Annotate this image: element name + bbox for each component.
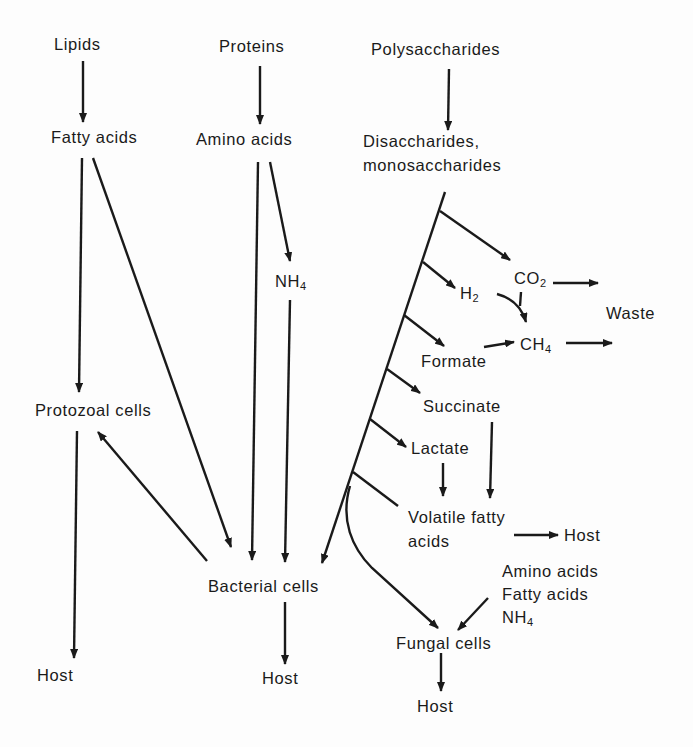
arrow-to-co2: [440, 211, 510, 260]
arrow-to-lactate: [370, 419, 406, 447]
ch4-text: CH: [520, 335, 545, 353]
node-fungal-cells: Fungal cells: [396, 633, 491, 654]
node-polysaccharides: Polysaccharides: [371, 39, 500, 60]
node-fungal-inputs-nh4: NH4: [502, 607, 534, 633]
co2-subscript: 2: [540, 277, 547, 289]
node-monosaccharides: monosaccharides: [363, 155, 501, 176]
node-host-vfa: Host: [564, 525, 600, 546]
nh4-subscript: 4: [300, 280, 307, 292]
h2-text: H: [460, 284, 473, 302]
node-ch4: CH4: [520, 334, 552, 360]
arrow-inputs-to-fungal: [458, 598, 488, 630]
node-waste: Waste: [606, 303, 655, 324]
line-to-vfa: [353, 472, 398, 506]
arrow-layer: [0, 0, 693, 747]
fungal-nh4-subscript: 4: [527, 616, 534, 628]
arrow-fatty-acids-to-bacterial: [93, 158, 231, 547]
node-vfa-line1: Volatile fatty: [408, 507, 505, 528]
arrow-succinate-to-vfa: [490, 422, 492, 498]
node-host-protozoal: Host: [37, 665, 73, 686]
arrow-amino-acids-to-bacterial: [252, 162, 258, 560]
node-co2: CO2: [514, 268, 547, 294]
ch4-subscript: 4: [545, 343, 552, 355]
arrow-protozoal-to-host: [74, 431, 77, 658]
arrow-polysaccharides-to-disaccharides: [448, 69, 449, 130]
node-succinate: Succinate: [423, 396, 501, 417]
arrow-co2-to-ch4: [520, 292, 521, 306]
node-proteins: Proteins: [219, 36, 284, 57]
node-protozoal-cells: Protozoal cells: [35, 400, 151, 421]
arrow-amino-acids-to-nh4: [270, 162, 290, 261]
node-amino-acids: Amino acids: [196, 129, 292, 150]
metabolic-pathway-diagram: Lipids Proteins Polysaccharides Fatty ac…: [0, 0, 693, 747]
arrow-to-succinate: [387, 369, 420, 393]
node-bacterial-cells: Bacterial cells: [208, 576, 319, 597]
node-host-fungal: Host: [417, 696, 453, 717]
node-fungal-inputs-amino-acids: Amino acids: [502, 561, 598, 582]
node-nh4: NH4: [275, 271, 307, 297]
h2-subscript: 2: [473, 292, 480, 304]
arrow-formate-to-ch4: [484, 342, 514, 347]
arrow-nh4-to-bacterial: [285, 300, 290, 562]
nh4-text: NH: [275, 272, 300, 290]
arrow-bacterial-to-protozoal: [98, 432, 207, 561]
co2-text: CO: [514, 269, 540, 287]
fungal-nh4-text: NH: [502, 608, 527, 626]
node-host-bacterial: Host: [262, 668, 298, 689]
node-h2: H2: [460, 283, 479, 309]
node-disaccharides: Disaccharides,: [363, 131, 480, 152]
node-fatty-acids: Fatty acids: [51, 127, 137, 148]
node-formate: Formate: [421, 351, 487, 372]
node-lipids: Lipids: [54, 34, 101, 55]
arrow-fatty-acids-to-protozoal: [79, 158, 82, 392]
node-fungal-inputs-fatty-acids: Fatty acids: [502, 584, 588, 605]
node-vfa-line2: acids: [408, 531, 450, 552]
arrow-to-h2: [423, 262, 455, 288]
node-lactate: Lactate: [411, 438, 469, 459]
arrow-to-formate: [404, 315, 444, 346]
